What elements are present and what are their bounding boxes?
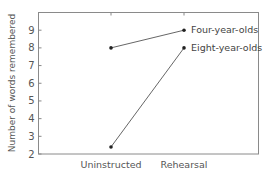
data-point xyxy=(109,46,113,50)
data-point xyxy=(182,46,186,50)
data-point xyxy=(109,145,113,149)
y-axis-label: Number of words remembered xyxy=(7,14,17,152)
line-chart: 23456789 UninstructedRehearsal Four-year… xyxy=(0,0,272,173)
series-label: Eight-year-olds xyxy=(191,42,262,53)
x-category-label: Uninstructed xyxy=(80,159,141,170)
y-tick-label: 2 xyxy=(28,149,34,160)
y-tick-label: 9 xyxy=(28,25,34,36)
y-tick-label: 5 xyxy=(28,95,34,106)
series-line-four-year-olds xyxy=(111,30,184,48)
data-point xyxy=(182,28,186,32)
x-category-label: Rehearsal xyxy=(160,159,207,170)
y-tick-label: 8 xyxy=(28,42,34,53)
y-tick-label: 6 xyxy=(28,78,34,89)
series-label: Four-year-olds xyxy=(191,24,258,35)
y-tick-label: 4 xyxy=(28,113,34,124)
series-line-eight-year-olds xyxy=(111,48,184,147)
y-tick-label: 3 xyxy=(28,131,34,142)
y-tick-label: 7 xyxy=(28,60,34,71)
